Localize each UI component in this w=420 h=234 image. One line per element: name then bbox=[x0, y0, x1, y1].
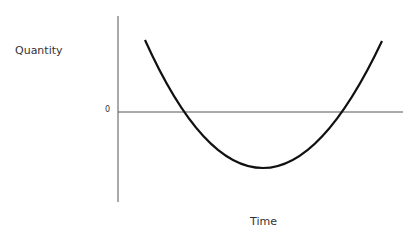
chart-plot bbox=[0, 0, 420, 234]
quantity-curve bbox=[145, 40, 382, 168]
